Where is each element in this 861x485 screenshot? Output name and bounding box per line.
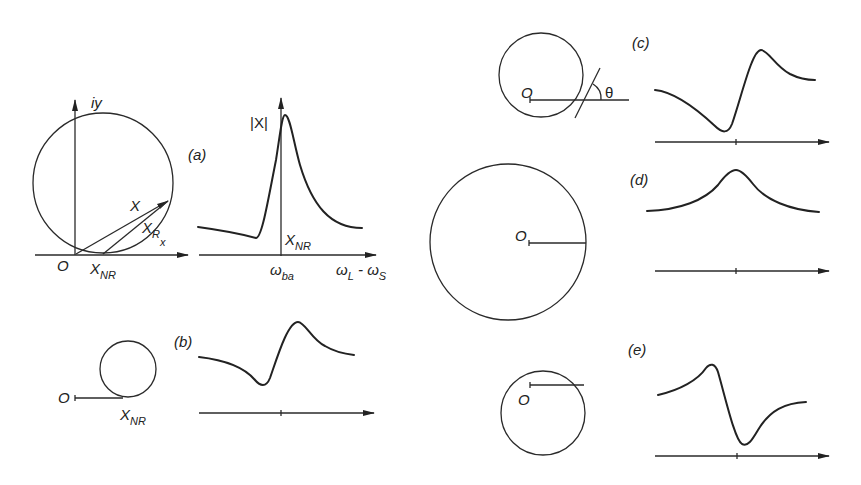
spectrum-curve-c	[655, 50, 815, 131]
nonresonant-label-a: XNR	[89, 260, 116, 281]
spectrum-curve-e	[658, 365, 806, 445]
frequency-axis-label: ωL - ωS	[336, 261, 387, 282]
panel-c-circle-diagram	[499, 33, 629, 118]
panel-c-spectrum	[655, 50, 829, 145]
resonance-frequency-label: ωba	[270, 261, 294, 282]
panel-e-spectrum	[655, 365, 829, 459]
origin-label-c: O	[521, 84, 533, 101]
angle-arc	[593, 84, 601, 100]
panel-d-label: (d)	[630, 171, 648, 188]
panel-a-circle-diagram	[33, 100, 188, 255]
vector-x-label: X	[129, 197, 141, 214]
origin-label-a: O	[57, 257, 69, 274]
angle-theta-label: θ	[605, 84, 613, 101]
spectrum-curve-b	[199, 322, 354, 385]
panel-b-spectrum	[199, 322, 374, 416]
circle-d	[430, 164, 586, 320]
origin-label-e: O	[518, 391, 530, 408]
origin-label-b: O	[58, 389, 70, 406]
panel-a-label: (a)	[188, 146, 206, 163]
circle-c	[499, 33, 583, 117]
panel-d-circle-diagram	[430, 164, 586, 320]
magnitude-curve	[198, 115, 362, 238]
origin-label-d: O	[515, 227, 527, 244]
panel-d-spectrum	[647, 170, 829, 274]
nonresonant-label-b: XNR	[119, 406, 146, 427]
panel-b-label: (b)	[174, 333, 192, 350]
circle-b	[100, 341, 156, 397]
panel-c-label: (c)	[632, 34, 650, 51]
circle-e	[501, 371, 585, 455]
imag-axis-label: iy	[91, 94, 103, 111]
panel-e-label: (e)	[628, 341, 646, 358]
panel-b-circle-diagram	[75, 341, 156, 401]
panel-e-circle-diagram	[501, 371, 585, 455]
nonresonant-level-label: XNR	[284, 231, 311, 252]
spectrum-curve-d	[647, 170, 819, 212]
magnitude-axis-label: |X|	[250, 114, 268, 131]
resonant-label: XRx	[141, 219, 166, 248]
diagram-canvas: iy O X XRx XNR (a) |X| XNR ωba ωL - ωS O…	[0, 0, 861, 485]
